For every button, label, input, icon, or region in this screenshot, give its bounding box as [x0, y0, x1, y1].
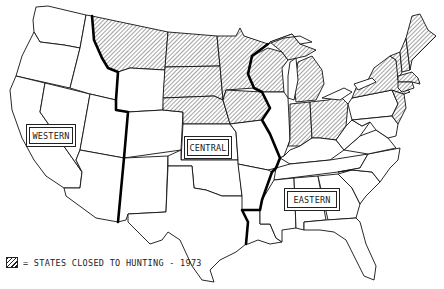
region-label-eastern: EASTERN — [287, 191, 337, 208]
western-states — [10, 6, 183, 222]
legend-text: = STATES CLOSED TO HUNTING - 1973 — [23, 258, 202, 268]
state-michigan-lower — [294, 56, 324, 102]
lake-erie — [322, 88, 352, 100]
region-label-western: WESTERN — [29, 127, 73, 144]
state-colorado — [124, 110, 183, 158]
state-florida — [304, 218, 376, 280]
hatch-pattern-icon — [6, 257, 18, 268]
state-indiana — [288, 102, 312, 146]
map-legend: = STATES CLOSED TO HUNTING - 1973 — [6, 257, 202, 268]
state-south-dakota — [163, 66, 223, 100]
state-connecticut — [398, 82, 414, 92]
state-wyoming — [116, 68, 165, 112]
eastern-states — [217, 14, 436, 280]
region-label-central: CENTRAL — [187, 139, 229, 156]
state-north-dakota — [165, 32, 220, 67]
state-maine — [406, 14, 436, 70]
